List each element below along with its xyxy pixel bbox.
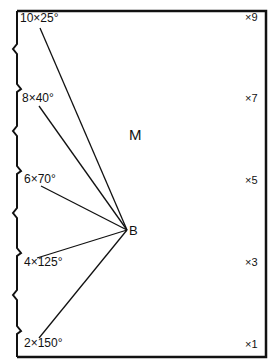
mark-label-4: 4×125° bbox=[24, 256, 63, 268]
ray-6 bbox=[41, 186, 127, 230]
ray-10 bbox=[40, 28, 127, 230]
right-mark-3: ×3 bbox=[245, 257, 258, 268]
ray-2 bbox=[39, 230, 127, 338]
mark-label-6: 6×70° bbox=[24, 173, 56, 185]
left-zigzag-edge bbox=[13, 11, 21, 357]
ray-8 bbox=[39, 106, 127, 230]
center-label-m: M bbox=[129, 127, 142, 142]
right-mark-1: ×1 bbox=[245, 339, 258, 350]
mark-label-10: 10×25° bbox=[20, 12, 59, 24]
mark-label-2: 2×150° bbox=[24, 337, 63, 349]
pivot-label-b: B bbox=[129, 225, 138, 237]
mark-label-8: 8×40° bbox=[22, 92, 54, 104]
right-mark-7: ×7 bbox=[245, 93, 258, 104]
right-mark-9: ×9 bbox=[245, 12, 258, 23]
right-mark-5: ×5 bbox=[245, 175, 258, 186]
ray-4 bbox=[37, 230, 127, 258]
